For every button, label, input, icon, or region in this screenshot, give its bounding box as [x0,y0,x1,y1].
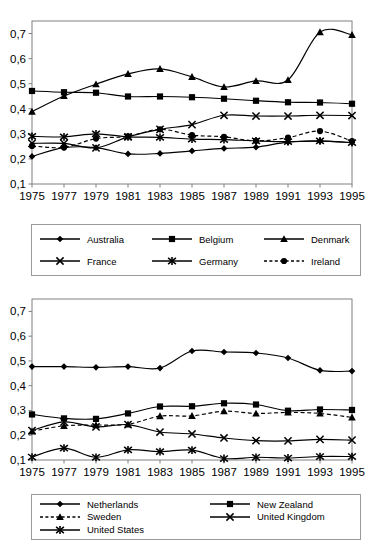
data-point-square [93,90,99,96]
x-tick-label: 1993 [307,190,333,202]
x-tick-label: 1983 [147,466,173,478]
chart-1-block: 0,10,20,30,40,50,60,71975197719791981198… [0,0,369,222]
legend-marker-diamond-icon [38,233,82,245]
x-tick-label: 1987 [211,190,237,202]
legend-marker-star-icon [150,255,194,267]
data-point-square [29,411,35,417]
x-tick-label: 1975 [19,466,45,478]
legend-label: France [85,256,117,267]
chart-1-legend-grid: AustraliaBelgiumDenmarkFranceGermanyIrel… [32,225,360,275]
x-tick-label: 1993 [307,466,333,478]
x-tick-label: 1979 [83,190,109,202]
data-point-square [285,99,291,105]
data-point-star [28,453,36,461]
y-tick-label: 0,6 [10,53,26,65]
x-tick-label: 1977 [51,190,77,202]
data-point-square [157,403,163,409]
data-point-circle [61,144,67,150]
legend-item-denmark[interactable]: Denmark [262,228,362,250]
y-tick-label: 0,7 [10,305,26,317]
legend-item-netherlands[interactable]: Netherlands [38,498,208,511]
data-point-square [317,99,323,105]
legend-label: New Zealand [255,499,313,510]
series-france [28,112,355,152]
legend-label: United Kingdom [255,511,325,522]
legend-label: Denmark [309,234,350,245]
x-tick-label: 1985 [179,190,205,202]
legend-label: United States [85,524,144,535]
data-point-diamond [125,151,132,158]
x-tick-label: 1991 [275,466,301,478]
chart-2-legend: NetherlandsNew ZealandSwedenUnited Kingd… [31,494,361,540]
data-point-circle [157,126,163,132]
data-point-square [125,410,131,416]
data-point-diamond [157,365,164,372]
data-point-square [125,93,131,99]
legend-marker-x-icon [208,511,252,523]
legend-item-france[interactable]: France [38,250,150,272]
data-point-diamond [253,144,260,151]
chart-2-block: 0,10,20,30,40,50,60,71975197719791981198… [0,288,369,494]
legend-item-united-states[interactable]: United States [38,523,208,536]
legend-item-ireland[interactable]: Ireland [262,250,362,272]
data-point-diamond [221,349,228,356]
x-tick-label: 1979 [83,466,109,478]
chart-1-legend: AustraliaBelgiumDenmarkFranceGermanyIrel… [31,224,361,276]
data-point-circle [349,138,355,144]
legend-item-united-kingdom[interactable]: United Kingdom [208,511,368,524]
data-point-diamond [93,364,100,371]
legend-label: Ireland [309,256,340,267]
data-point-square [221,400,227,406]
x-tick-label: 1989 [243,190,269,202]
legend-marker-circle-icon [262,255,306,267]
chart-1-plot: 0,10,20,30,40,50,60,71975197719791981198… [0,0,369,222]
x-tick-label: 1989 [243,466,269,478]
y-tick-label: 0,7 [10,28,26,40]
legend-item-australia[interactable]: Australia [38,228,150,250]
series-denmark [28,28,356,114]
x-tick-label: 1987 [211,466,237,478]
data-point-circle [29,143,35,149]
legend-item-new-zealand[interactable]: New Zealand [208,498,368,511]
y-tick-label: 0,3 [10,128,26,140]
data-point-diamond [189,348,196,355]
data-point-diamond [125,363,132,370]
series-united-kingdom [28,418,355,444]
legend-marker-diamond-icon [38,498,82,510]
chart-2-plot: 0,10,20,30,40,50,60,71975197719791981198… [0,288,369,494]
data-point-triangle [316,28,324,35]
x-tick-label: 1995 [339,466,365,478]
data-point-diamond [317,367,324,374]
data-point-diamond [157,150,164,157]
data-point-triangle [220,407,228,414]
data-point-diamond [349,368,356,375]
legend-item-belgium[interactable]: Belgium [150,228,262,250]
legend-marker-triangle-icon [38,511,82,523]
data-point-circle [125,133,131,139]
legend-label: Australia [85,234,124,245]
legend-marker-square-icon [208,498,252,510]
data-point-square [93,416,99,422]
legend-marker-star-icon [38,524,82,536]
legend-marker-x-icon [38,255,82,267]
data-point-circle [253,138,259,144]
y-tick-label: 0,2 [10,429,26,441]
legend-marker-triangle-icon [262,233,306,245]
legend-item-germany[interactable]: Germany [150,250,262,272]
legend-label: Netherlands [85,499,138,510]
data-point-diamond [61,363,68,370]
data-point-square [157,93,163,99]
x-tick-label: 1991 [275,190,301,202]
x-tick-label: 1981 [115,190,141,202]
plot-frame [32,299,352,460]
legend-marker-square-icon [150,233,194,245]
y-tick-label: 0,4 [10,380,27,392]
data-point-diamond [253,350,260,357]
legend-item-sweden[interactable]: Sweden [38,511,208,524]
data-point-square [221,96,227,102]
data-point-diamond [221,145,228,152]
x-tick-label: 1981 [115,466,141,478]
x-tick-label: 1995 [339,190,365,202]
series-netherlands [29,348,356,375]
